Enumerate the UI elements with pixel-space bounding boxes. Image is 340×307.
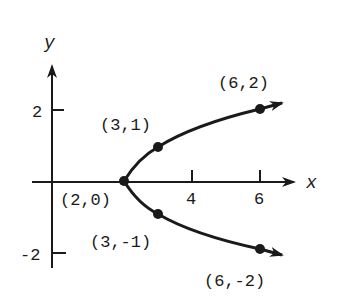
point-3-neg1 (153, 209, 163, 219)
x-tick-label-6: 6 (254, 190, 264, 209)
point-label-3-neg1: (3,-1) (90, 233, 151, 252)
point-label-6-neg2: (6,-2) (204, 272, 265, 291)
point-6-neg2 (255, 244, 265, 254)
y-axis-label: y (43, 33, 56, 53)
parabola-upper-branch (124, 103, 282, 181)
point-label-6-2: (6,2) (218, 74, 269, 93)
x-tick-label-4: 4 (186, 190, 196, 209)
parabola-diagram: y x 2 -2 4 6 (2,0) (3,1) (3,-1) (6,2) (6… (0, 0, 340, 307)
y-tick-label-2: 2 (32, 103, 42, 122)
point-label-3-1: (3,1) (100, 116, 151, 135)
y-tick-label-neg2: -2 (20, 246, 40, 265)
point-label-2-0: (2,0) (60, 191, 111, 210)
point-6-2 (255, 104, 265, 114)
x-axis-label: x (305, 173, 317, 193)
point-3-1 (153, 142, 163, 152)
point-2-0 (119, 176, 129, 186)
